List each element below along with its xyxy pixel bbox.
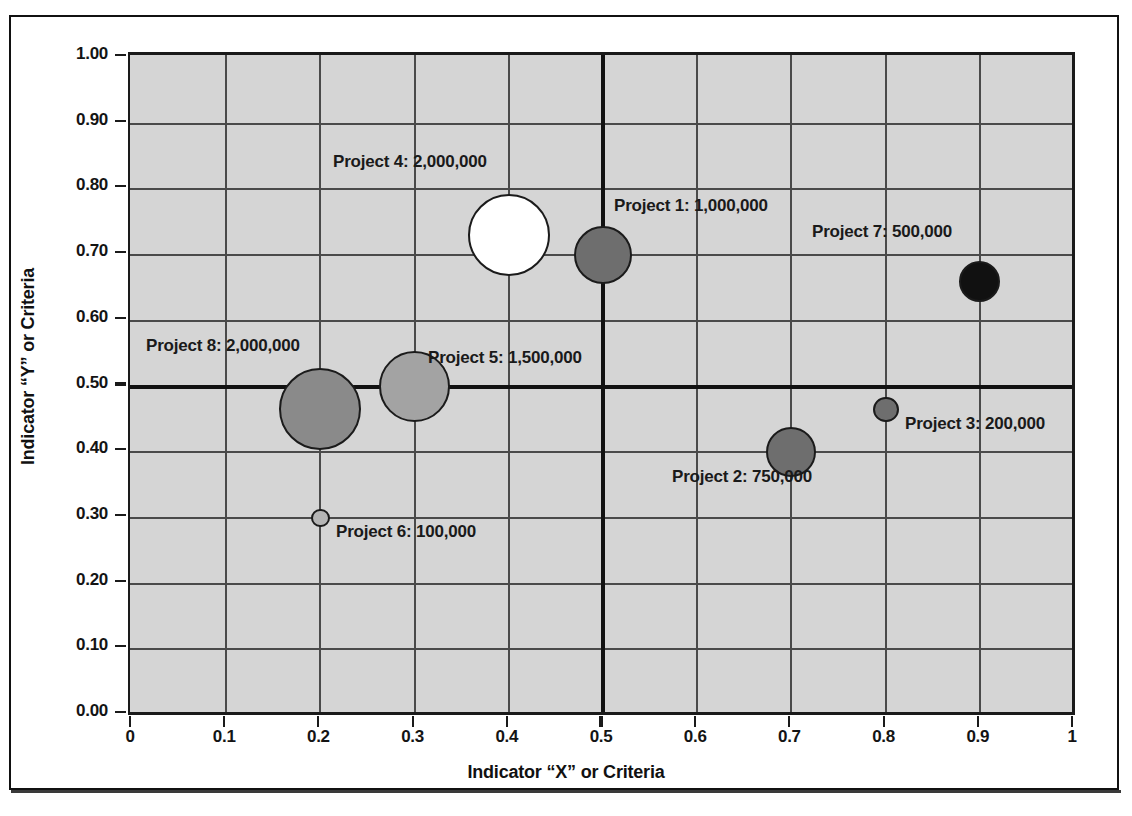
x-tick-mark	[788, 716, 790, 727]
y-tick-mark	[115, 580, 126, 582]
bubble-project-6[interactable]	[311, 509, 329, 527]
bubble-project-4[interactable]	[468, 194, 550, 276]
y-tick-label: 0.10	[52, 635, 108, 655]
x-axis-title: Indicator “X” or Criteria	[0, 762, 1132, 783]
x-tick-label: 0.8	[854, 727, 914, 747]
x-tick-mark	[977, 716, 979, 727]
x-tick-label: 0.5	[571, 727, 631, 747]
y-tick-label: 0.00	[52, 701, 108, 721]
y-tick-mark	[115, 54, 126, 56]
bubble-label-project-7: Project 7: 500,000	[812, 222, 952, 242]
grid-line-vertical	[885, 55, 887, 712]
bubble-chart-figure: Indicator “Y” or Criteria 0.000.100.200.…	[0, 0, 1132, 816]
y-tick-mark	[115, 120, 126, 122]
bubble-label-project-5: Project 5: 1,500,000	[428, 348, 582, 368]
y-tick-label: 0.20	[52, 570, 108, 590]
x-tick-label: 0.3	[383, 727, 443, 747]
x-tick-label: 0.4	[477, 727, 537, 747]
bubble-project-8[interactable]	[279, 368, 361, 450]
x-tick-label: 0.9	[948, 727, 1008, 747]
y-tick-mark	[115, 317, 126, 319]
y-tick-label: 0.50	[52, 373, 108, 393]
y-tick-label: 0.40	[52, 438, 108, 458]
x-tick-label: 0.1	[194, 727, 254, 747]
y-axis-title: Indicator “Y” or Criteria	[18, 217, 39, 517]
y-tick-label: 0.60	[52, 307, 108, 327]
x-tick-label: 1	[1042, 727, 1102, 747]
y-tick-mark	[115, 448, 126, 450]
y-tick-label: 0.80	[52, 175, 108, 195]
x-tick-label: 0.7	[759, 727, 819, 747]
bubble-label-project-2: Project 2: 750,000	[672, 467, 812, 487]
y-tick-label: 0.90	[52, 110, 108, 130]
bubble-label-project-8: Project 8: 2,000,000	[146, 336, 300, 356]
y-tick-mark	[115, 382, 126, 386]
y-tick-label: 1.00	[52, 44, 108, 64]
bubble-project-1[interactable]	[574, 226, 632, 284]
x-tick-mark	[883, 716, 885, 727]
plot-inner	[130, 55, 1072, 712]
grid-line-vertical	[979, 55, 981, 712]
y-tick-mark	[115, 185, 126, 187]
bubble-label-project-4: Project 4: 2,000,000	[333, 152, 487, 172]
x-tick-label: 0.6	[665, 727, 725, 747]
y-tick-label: 0.70	[52, 241, 108, 261]
plot-area	[128, 52, 1075, 715]
y-tick-mark	[115, 514, 126, 516]
x-tick-label: 0.2	[288, 727, 348, 747]
x-tick-mark	[506, 716, 508, 727]
bubble-project-7[interactable]	[959, 261, 1000, 302]
x-tick-mark	[1071, 716, 1073, 727]
grid-reference-line-horizontal	[130, 385, 1072, 389]
bubble-project-3[interactable]	[873, 397, 899, 423]
y-tick-mark	[115, 251, 126, 253]
y-tick-mark	[115, 711, 126, 713]
grid-line-vertical	[508, 55, 510, 712]
grid-reference-line-vertical	[601, 55, 605, 712]
x-tick-mark	[223, 716, 225, 727]
bubble-label-project-3: Project 3: 200,000	[905, 414, 1045, 434]
grid-line-vertical	[790, 55, 792, 712]
x-tick-mark	[129, 716, 131, 727]
x-tick-mark	[412, 716, 414, 727]
grid-line-vertical	[696, 55, 698, 712]
figure-frame-shadow	[11, 790, 1121, 793]
bubble-label-project-1: Project 1: 1,000,000	[614, 196, 768, 216]
y-tick-mark	[115, 645, 126, 647]
grid-line-vertical	[225, 55, 227, 712]
y-tick-label: 0.30	[52, 504, 108, 524]
x-tick-mark	[599, 716, 603, 727]
bubble-label-project-6: Project 6: 100,000	[336, 522, 476, 542]
x-tick-mark	[317, 716, 319, 727]
x-tick-label: 0	[100, 727, 160, 747]
x-tick-mark	[694, 716, 696, 727]
